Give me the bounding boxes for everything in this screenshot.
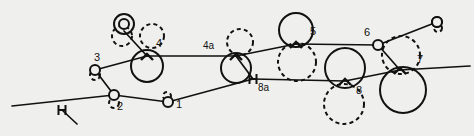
node-2-marker[interactable] [109,90,119,100]
label-4a: 4a [203,40,215,51]
node-1-marker[interactable] [163,97,173,107]
label-6: 6 [364,26,370,38]
label-1: 1 [176,98,182,110]
node-3-marker[interactable] [90,65,100,75]
node-6-marker[interactable] [373,40,383,50]
label-8a: 8a [258,82,270,93]
label-2: 2 [117,100,123,112]
edge-5-6 [296,44,378,45]
node-top-right-marker[interactable] [432,17,442,27]
label-7: 7 [417,53,423,65]
label-4: 4 [156,37,162,49]
label-3: 3 [94,51,100,63]
network-diagram: 12344a56788a [0,0,474,136]
figure-canvas: 12344a56788a [0,0,474,136]
node-top-left-marker[interactable] [119,19,129,29]
label-8: 8 [356,84,362,96]
label-5: 5 [310,25,316,37]
